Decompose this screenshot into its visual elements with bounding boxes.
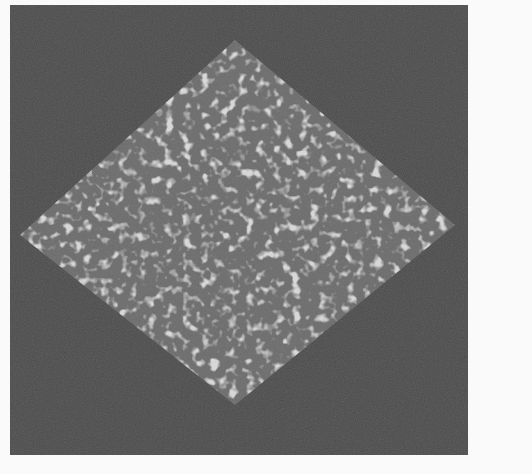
micrograph-panel [10, 5, 468, 455]
figure-canvas [0, 0, 532, 474]
speckled-diamond-image [10, 5, 468, 455]
